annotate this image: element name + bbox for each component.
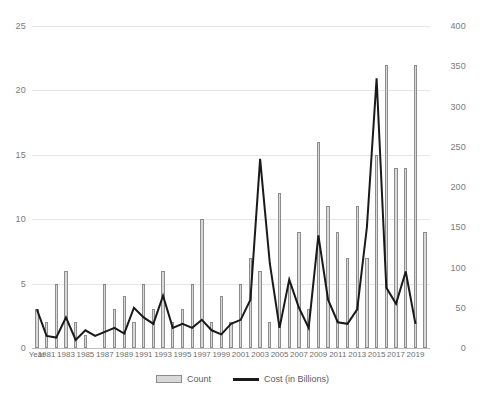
x-axis-labels: Year198119831985198719891991199319951997… <box>0 350 485 366</box>
x-axis-tick-label: 1987 <box>96 350 114 359</box>
legend-item-cost[interactable]: Cost (in Billions) <box>233 374 329 384</box>
x-axis-tick-label: 1993 <box>154 350 172 359</box>
legend-item-count[interactable]: Count <box>156 374 211 384</box>
x-axis-tick-label: 2011 <box>329 350 346 359</box>
line-swatch-icon <box>233 378 259 381</box>
right-axis-tick-label: 50 <box>440 303 466 313</box>
x-axis-tick-label: 1989 <box>115 350 133 359</box>
right-axis-tick-label: 250 <box>440 142 466 152</box>
x-axis-tick-label: 2001 <box>232 350 250 359</box>
right-axis-tick-label: 300 <box>440 102 466 112</box>
legend-label-count: Count <box>187 374 211 384</box>
left-axis-tick-label: 20 <box>2 85 26 95</box>
bar-swatch-icon <box>156 375 182 383</box>
x-axis-tick-label: 2013 <box>348 350 366 359</box>
left-axis-tick-label: 25 <box>2 21 26 31</box>
x-axis-tick-label: 2003 <box>251 350 269 359</box>
chart-legend: Count Cost (in Billions) <box>0 370 485 388</box>
x-axis-tick-label: 1997 <box>193 350 211 359</box>
x-axis-tick-label: 1985 <box>76 350 94 359</box>
x-axis-tick-label: 2015 <box>368 350 386 359</box>
right-axis-tick-label: 200 <box>440 182 466 192</box>
legend-label-cost: Cost (in Billions) <box>264 374 329 384</box>
right-axis-tick-label: 400 <box>440 21 466 31</box>
x-axis-tick-label: 1995 <box>174 350 192 359</box>
left-axis-tick-label: 10 <box>2 214 26 224</box>
chart-container: 0510152025 050100150200250300350400 Year… <box>0 0 485 394</box>
plot-area: 0510152025 050100150200250300350400 <box>32 26 430 348</box>
x-axis-tick-label: 1983 <box>57 350 75 359</box>
x-axis-tick-label: 1991 <box>135 350 153 359</box>
cost-line-path <box>37 78 416 340</box>
x-axis-tick-label: 2009 <box>309 350 327 359</box>
x-axis-tick-label: 2019 <box>407 350 425 359</box>
right-axis-tick-label: 350 <box>440 61 466 71</box>
line-series-cost <box>32 26 430 348</box>
right-axis-tick-label: 100 <box>440 263 466 273</box>
x-axis-line <box>32 348 430 349</box>
x-axis-tick-label: 2005 <box>271 350 289 359</box>
x-axis-tick-label: 1999 <box>212 350 230 359</box>
left-axis-tick-label: 5 <box>2 279 26 289</box>
x-axis-tick-label: 2017 <box>387 350 405 359</box>
left-axis-tick-label: 15 <box>2 150 26 160</box>
x-axis-tick-label: 1981 <box>38 350 56 359</box>
x-axis-tick-label: 2007 <box>290 350 308 359</box>
right-axis-tick-label: 150 <box>440 222 466 232</box>
